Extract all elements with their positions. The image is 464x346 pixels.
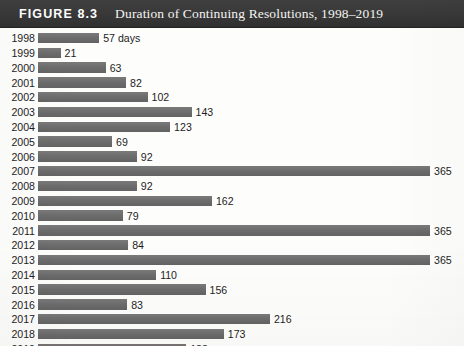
bar — [38, 240, 128, 250]
bar-value-label: 84 — [132, 239, 144, 251]
bar-value-label: 173 — [228, 328, 246, 340]
bar-row: 200182 — [0, 77, 464, 92]
bar-row: 2003143 — [0, 106, 464, 121]
bar — [38, 77, 126, 87]
bar-year-label: 2013 — [0, 254, 35, 266]
bar-row: 2017216 — [0, 313, 464, 328]
bar-year-label: 2016 — [0, 299, 35, 311]
bar-value-label: 83 — [131, 299, 143, 311]
bar — [38, 225, 430, 235]
bar-value-label: 365 — [434, 225, 452, 237]
bar — [38, 181, 137, 191]
bar — [38, 122, 170, 132]
figure-page: FIGURE 8.3 Duration of Continuing Resolu… — [0, 0, 464, 346]
bar — [38, 62, 106, 72]
bar-year-label: 2008 — [0, 180, 35, 192]
bar-year-label: 2001 — [0, 77, 35, 89]
bar-value-label: 92 — [141, 151, 153, 163]
bar — [38, 151, 137, 161]
bar-value-label: 216 — [274, 313, 292, 325]
bar-year-label: 2014 — [0, 269, 35, 281]
bar-row: 2015156 — [0, 284, 464, 299]
bar-value-label: 57 days — [103, 32, 140, 44]
bar-year-label: 2006 — [0, 151, 35, 163]
bar-value-label: 102 — [152, 91, 170, 103]
bar-row: 201284 — [0, 239, 464, 254]
bar-year-label: 2012 — [0, 239, 35, 251]
bar-year-label: 2004 — [0, 121, 35, 133]
bar-value-label: 21 — [65, 47, 77, 59]
bar — [38, 329, 224, 339]
bar-row: 2007365 — [0, 165, 464, 180]
bar-year-label: 2018 — [0, 328, 35, 340]
bar-row: 200892 — [0, 180, 464, 195]
bar-row: 2018173 — [0, 328, 464, 343]
bar-row: 2011365 — [0, 225, 464, 240]
bar-value-label: 63 — [110, 62, 122, 74]
bar-year-label: 2005 — [0, 136, 35, 148]
bar-value-label: 123 — [174, 121, 192, 133]
bar — [38, 136, 112, 146]
bar — [38, 196, 212, 206]
bar-row: 2002102 — [0, 91, 464, 106]
bar-value-label: 69 — [116, 136, 128, 148]
bar-row: 2013365 — [0, 254, 464, 269]
bar-row: 201683 — [0, 299, 464, 314]
bar-row: 200692 — [0, 151, 464, 166]
bar-value-label: 92 — [141, 180, 153, 192]
bar-value-label: 143 — [196, 106, 214, 118]
bar — [38, 299, 127, 309]
bar-row: 200063 — [0, 62, 464, 77]
bar-value-label: 365 — [434, 165, 452, 177]
bar-year-label: 2002 — [0, 91, 35, 103]
bar-value-label: 162 — [216, 195, 234, 207]
bar — [38, 270, 156, 280]
bar — [38, 166, 430, 176]
bar-value-label: 79 — [127, 210, 139, 222]
bar-row: 201079 — [0, 210, 464, 225]
bar — [38, 33, 99, 43]
bar-value-label: 110 — [160, 269, 177, 281]
bar-year-label: 1998 — [0, 32, 35, 44]
bar-year-label: 2017 — [0, 313, 35, 325]
bar-year-label: 2009 — [0, 195, 35, 207]
bar-year-label: 1999 — [0, 47, 35, 59]
figure-title: Duration of Continuing Resolutions, 1998… — [115, 6, 383, 22]
bar-row: 199857 days — [0, 32, 464, 47]
bar — [38, 255, 430, 265]
bar-year-label: 2000 — [0, 62, 35, 74]
bar-year-label: 2010 — [0, 210, 35, 222]
bar-chart-plot-area: 199857 days19992120006320018220021022003… — [0, 28, 464, 346]
bar-year-label: 2011 — [0, 225, 35, 237]
bar — [38, 92, 148, 102]
bar — [38, 210, 123, 220]
figure-number-label: FIGURE 8.3 — [19, 7, 98, 21]
bar — [38, 48, 61, 58]
bar-row: 199921 — [0, 47, 464, 62]
bar-row: 2004123 — [0, 121, 464, 136]
figure-header-bar: FIGURE 8.3 Duration of Continuing Resolu… — [0, 0, 464, 28]
bar-row: 2014110 — [0, 269, 464, 284]
bar — [38, 284, 206, 294]
bar-value-label: 156 — [210, 284, 228, 296]
bar-value-label: 365 — [434, 254, 452, 266]
bar — [38, 107, 192, 117]
bar-row: 200569 — [0, 136, 464, 151]
bar-year-label: 2015 — [0, 284, 35, 296]
bar-year-label: 2007 — [0, 165, 35, 177]
bar-year-label: 2003 — [0, 106, 35, 118]
bar-row: 2009162 — [0, 195, 464, 210]
bar — [38, 314, 270, 324]
bar-value-label: 82 — [130, 77, 142, 89]
